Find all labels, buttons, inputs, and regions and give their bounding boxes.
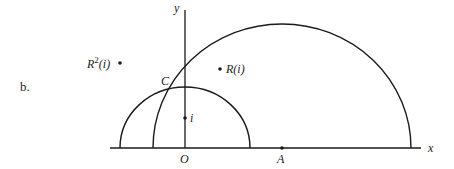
point-c-label: C <box>161 74 170 88</box>
point-r2-i-dot <box>118 61 122 65</box>
origin-label: O <box>180 152 189 166</box>
y-axis-label: y <box>173 1 180 15</box>
point-a-dot <box>280 146 284 150</box>
geometry-figure: b. x y O A i C R(i) R2(i) <box>0 0 454 169</box>
r2-argument: (i) <box>99 57 110 71</box>
large-semicircle <box>153 24 411 148</box>
point-r2-i-label: R2(i) <box>86 55 110 71</box>
point-i-label: i <box>190 111 193 125</box>
point-a-label: A <box>276 152 285 166</box>
x-axis-label: x <box>427 141 434 155</box>
point-i-dot <box>183 116 187 120</box>
point-r-i-label: R(i) <box>225 62 245 76</box>
part-label: b. <box>20 79 30 94</box>
point-r-i-dot <box>218 67 222 71</box>
